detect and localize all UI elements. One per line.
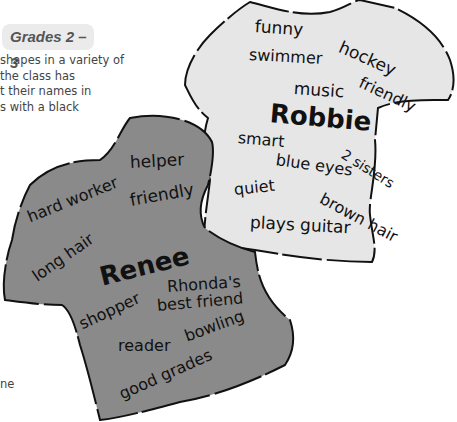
trait-word: funny bbox=[254, 16, 304, 39]
trait-word: smart bbox=[237, 128, 285, 151]
trait-word: helper bbox=[129, 149, 184, 172]
trait-word: swimmer bbox=[249, 45, 323, 68]
trait-word: music bbox=[293, 78, 345, 101]
trait-word: reader bbox=[118, 336, 170, 355]
